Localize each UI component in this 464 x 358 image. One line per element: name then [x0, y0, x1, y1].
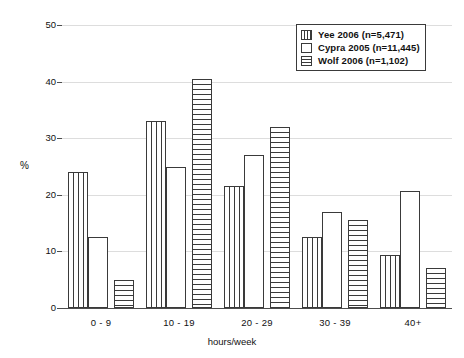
- y-axis-tick-mark: [57, 82, 62, 83]
- y-axis-tick-mark: [57, 25, 62, 26]
- y-axis-tick-label: 0: [10, 303, 56, 313]
- y-axis-tick-mark: [57, 251, 62, 252]
- legend-item: Cypra 2005 (n=11,445): [301, 41, 420, 54]
- y-axis-tick-label: 30: [10, 133, 56, 143]
- x-axis-tick-label: 40+: [368, 317, 458, 328]
- bar-chart: 01020304050 % 0 - 910 - 1920 - 2930 - 39…: [0, 0, 464, 358]
- legend: Yee 2006 (n=5,471) Cypra 2005 (n=11,445)…: [296, 24, 426, 71]
- y-axis-tick-mark: [57, 195, 62, 196]
- x-axis-tick-label: 0 - 9: [56, 317, 146, 328]
- y-axis-title: %: [20, 160, 29, 171]
- y-axis-tick-mark: [57, 138, 62, 139]
- y-axis-tick-label: 20: [10, 190, 56, 200]
- legend-item: Yee 2006 (n=5,471): [301, 28, 420, 41]
- x-axis-tick-label: 20 - 29: [212, 317, 302, 328]
- x-axis-tick-label: 10 - 19: [134, 317, 224, 328]
- legend-item-label: Cypra 2005 (n=11,445): [318, 42, 420, 53]
- legend-item-label: Yee 2006 (n=5,471): [318, 29, 404, 40]
- y-axis-tick-label: 40: [10, 77, 56, 87]
- y-axis-tick-label: 50: [10, 20, 56, 30]
- y-axis-tick-mark: [57, 308, 62, 309]
- x-axis-tick-label: 30 - 39: [290, 317, 380, 328]
- x-axis-title: hours/week: [0, 336, 464, 347]
- legend-swatch-horizontal-stripes-icon: [301, 56, 312, 66]
- legend-swatch-plain-icon: [301, 43, 312, 53]
- y-axis-tick-label: 10: [10, 246, 56, 256]
- legend-item-label: Wolf 2006 (n=1,102): [318, 55, 408, 66]
- legend-item: Wolf 2006 (n=1,102): [301, 54, 420, 67]
- legend-swatch-vertical-stripes-icon: [301, 30, 312, 40]
